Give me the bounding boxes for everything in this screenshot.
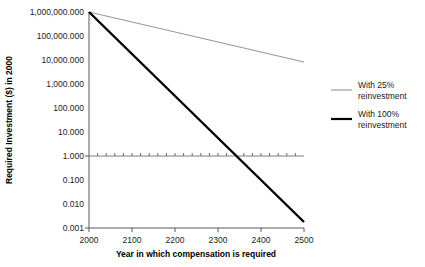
y-tick-label: 100,000.000 — [37, 31, 85, 41]
x-axis-title: Year in which compensation is required — [116, 249, 276, 259]
x-tick-label: 2100 — [123, 235, 142, 245]
x-tick-label: 2200 — [166, 235, 185, 245]
y-tick-label: 10.000 — [58, 127, 84, 137]
x-tick-label: 2400 — [252, 235, 271, 245]
chart-legend: With 25% reinvestment With 100% reinvest… — [331, 80, 407, 130]
legend-label-line1: With 100% — [358, 109, 400, 119]
x-tick-label: 2300 — [209, 235, 228, 245]
y-tick-label: 0.010 — [63, 199, 85, 209]
y-tick-label: 0.100 — [63, 175, 85, 185]
y-tick-label: 10,000.000 — [41, 55, 84, 65]
chart-figure: 1,000,000.000 100,000.000 10,000.000 1,0… — [0, 0, 425, 267]
y-tick-label: 100.000 — [53, 103, 84, 113]
y-tick-label: 0.001 — [63, 223, 85, 233]
y-axis-title: Required Investment ($) in 2000 — [4, 56, 14, 184]
legend-label-line2: reinvestment — [358, 120, 407, 130]
x-tick-label: 2000 — [80, 235, 99, 245]
legend-label-line2: reinvestment — [358, 91, 407, 101]
y-tick-label: 1.000 — [63, 151, 85, 161]
y-tick-label: 1,000,000.000 — [30, 7, 85, 17]
x-axis-ticks — [89, 228, 304, 232]
y-tick-label: 1,000.000 — [46, 79, 84, 89]
x-tick-label: 2500 — [295, 235, 314, 245]
log-line-chart: 1,000,000.000 100,000.000 10,000.000 1,0… — [0, 0, 425, 267]
x-axis-tick-labels: 2000 2100 2200 2300 2400 2500 — [80, 235, 314, 245]
legend-label-line1: With 25% — [358, 80, 395, 90]
y-axis-tick-labels: 1,000,000.000 100,000.000 10,000.000 1,0… — [30, 7, 85, 233]
